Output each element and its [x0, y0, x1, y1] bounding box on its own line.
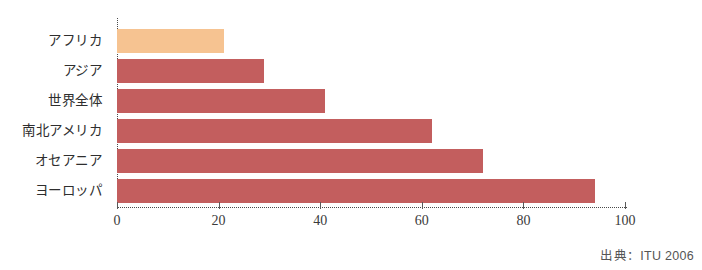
plot-area — [117, 26, 625, 206]
category-label-europe: ヨーロッパ — [35, 176, 103, 206]
bar-americas — [117, 119, 432, 143]
bar-europe — [117, 179, 595, 203]
x-axis-tick-label: 100 — [615, 213, 636, 229]
bar-oceania — [117, 149, 483, 173]
category-label-asia: アジア — [63, 56, 103, 86]
bar-africa — [117, 29, 224, 53]
x-axis-tick-label: 20 — [212, 213, 226, 229]
bar-world — [117, 89, 325, 113]
x-axis-tick — [219, 202, 220, 209]
x-axis-line — [117, 207, 627, 208]
category-label-oceania: オセアニア — [35, 146, 103, 176]
x-axis-tick — [523, 202, 524, 209]
x-axis-tick-label: 40 — [313, 213, 327, 229]
category-label-americas: 南北アメリカ — [22, 116, 102, 146]
category-label-africa: アフリカ — [48, 26, 102, 56]
x-axis-tick — [625, 202, 626, 209]
category-axis-labels: アフリカ アジア 世界全体 南北アメリカ オセアニア ヨーロッパ — [0, 26, 110, 206]
x-axis-tick — [320, 202, 321, 209]
x-axis-tick-label: 60 — [415, 213, 429, 229]
x-axis-tick-label: 80 — [516, 213, 530, 229]
category-label-world: 世界全体 — [48, 86, 102, 116]
x-axis-tick — [422, 202, 423, 209]
bar-chart: アフリカ アジア 世界全体 南北アメリカ オセアニア ヨーロッパ 0204060… — [0, 0, 702, 270]
x-axis-tick-label: 0 — [114, 213, 121, 229]
bar-asia — [117, 59, 264, 83]
source-note: 出典：ITU 2006 — [600, 245, 694, 264]
x-axis-tick — [117, 202, 118, 209]
